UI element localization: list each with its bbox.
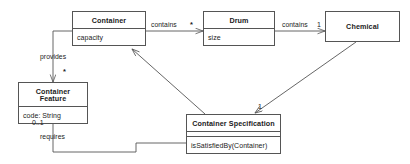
class-chemical[interactable]: Chemical xyxy=(325,11,400,42)
class-container[interactable]: Container capacity xyxy=(72,11,146,46)
class-container-name: Container xyxy=(73,12,145,28)
edge-chemical-to-spec xyxy=(255,42,356,113)
uml-class-diagram: Container capacity Drum size Chemical Co… xyxy=(0,0,410,164)
class-drum-attributes: size xyxy=(204,28,274,45)
class-container-specification-operations: isSatisfiedBy(Container) xyxy=(187,136,280,153)
label-provides: provides xyxy=(40,54,66,61)
class-container-attributes: capacity xyxy=(73,28,145,45)
class-chemical-name: Chemical xyxy=(326,23,399,30)
label-contains-drum: contains xyxy=(151,22,177,29)
multiplicity-requires: 0..1 xyxy=(32,119,44,126)
multiplicity-chemical-spec: 1 xyxy=(258,103,262,110)
multiplicity-provides: * xyxy=(63,68,66,76)
multiplicity-contains-drum: * xyxy=(190,21,193,29)
label-requires: requires xyxy=(40,134,65,141)
class-container-feature-name: Container Feature xyxy=(19,83,87,106)
class-container-feature[interactable]: Container Feature code: String xyxy=(18,82,88,124)
class-drum-name: Drum xyxy=(204,12,274,28)
multiplicity-contains-chemical: 1 xyxy=(317,21,321,28)
label-contains-chemical: contains xyxy=(282,22,308,29)
class-container-specification[interactable]: Container Specification isSatisfiedBy(Co… xyxy=(186,114,281,154)
class-drum[interactable]: Drum size xyxy=(203,11,275,46)
class-container-specification-name: Container Specification xyxy=(187,115,280,131)
class-container-feature-attributes: code: String xyxy=(19,106,87,123)
edge-spec-to-container xyxy=(132,49,205,114)
